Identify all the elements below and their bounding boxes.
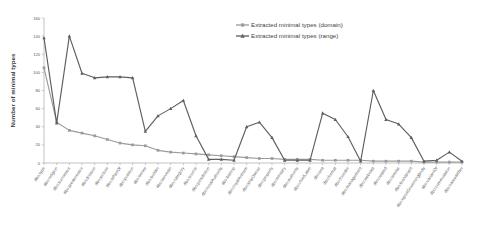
series-0-point (195, 153, 198, 156)
y-tick-label: 0 (38, 161, 41, 166)
chart-container: 020406080100120140160Number of minimal t… (0, 0, 481, 225)
series-1-point (448, 150, 451, 153)
y-tick-label: 100 (33, 70, 41, 75)
series-line-1 (44, 36, 462, 161)
series-0-point (182, 152, 185, 155)
y-axis-title: Number of minimal types (9, 53, 16, 127)
series-1-point (194, 134, 197, 137)
series-0-point (43, 66, 46, 69)
series-0-point (119, 142, 122, 145)
legend-label-1: Extracted minimal types (range) (251, 32, 338, 39)
series-1-point (42, 36, 45, 39)
series-0-point (131, 144, 134, 147)
series-0-point (245, 156, 248, 159)
series-0-point (157, 149, 160, 152)
series-0-point (106, 138, 109, 141)
y-tick-label: 80 (35, 88, 40, 93)
y-tick-label: 60 (35, 106, 40, 111)
series-0-point (347, 159, 350, 162)
legend-marker-0 (241, 23, 244, 26)
series-1-point (80, 71, 83, 74)
series-0-point (385, 160, 388, 163)
series-0-point (271, 157, 274, 160)
legend-label-0: Extracted minimal types (domain) (251, 21, 343, 28)
x-tick-label: dbo:era (312, 165, 325, 180)
line-chart: 020406080100120140160Number of minimal t… (0, 0, 481, 225)
series-0-point (68, 129, 71, 132)
series-0-point (220, 154, 223, 157)
series-0-point (334, 159, 337, 162)
series-1-point (258, 120, 261, 123)
series-1-point (182, 99, 185, 102)
y-tick-label: 120 (33, 52, 41, 57)
y-tick-label: 140 (33, 34, 41, 39)
y-tick-label: 40 (35, 124, 40, 129)
series-0-point (397, 160, 400, 163)
series-1-point (321, 111, 324, 114)
y-tick-label: 20 (35, 142, 40, 147)
series-0-point (321, 159, 324, 162)
series-line-0 (44, 68, 462, 162)
series-0-point (448, 161, 451, 164)
series-0-point (81, 132, 84, 135)
series-0-point (93, 134, 96, 137)
y-tick-label: 160 (33, 16, 41, 21)
series-0-point (144, 144, 147, 147)
series-1-point (372, 89, 375, 92)
series-1-point (68, 34, 71, 37)
series-0-point (207, 153, 210, 156)
series-0-point (410, 160, 413, 163)
series-0-point (169, 151, 172, 154)
series-0-point (258, 157, 261, 160)
series-0-point (372, 160, 375, 163)
